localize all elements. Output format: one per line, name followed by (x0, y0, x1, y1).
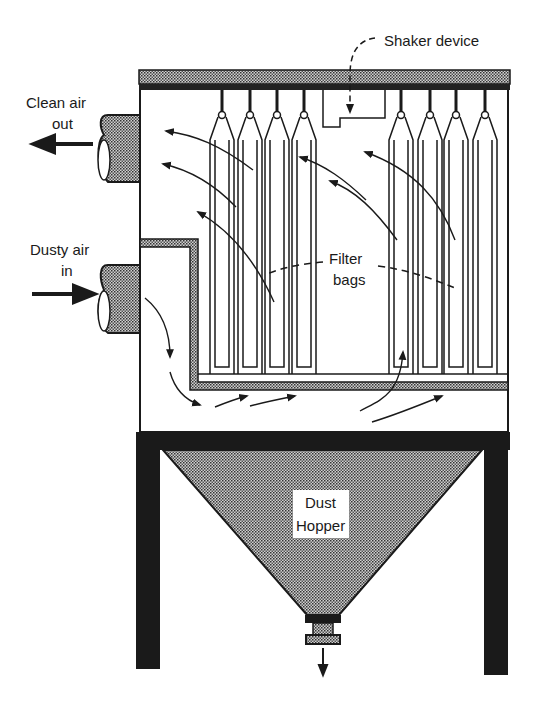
clean-airflow-arrows (163, 131, 455, 302)
dust-hopper-label-2: Hopper (296, 517, 345, 534)
discharge-valve (305, 615, 341, 644)
top-plate (139, 70, 510, 90)
filter-bags-label-1: Filter (329, 250, 362, 267)
filter-bags-label-2: bags (333, 271, 366, 288)
shaker-device-label: Shaker device (384, 32, 479, 49)
dusty-air-label-1: Dusty air (30, 241, 89, 258)
baghouse-diagram: Shaker device Clean air out Dusty air in… (0, 0, 533, 718)
shaker-device (323, 90, 385, 127)
filter-bag (238, 90, 262, 374)
clean-air-label-2: out (52, 115, 74, 132)
dusty-air-label-2: in (61, 262, 73, 279)
clean-air-outlet-pipe (98, 115, 140, 182)
filter-bag (265, 90, 289, 374)
filter-bag (210, 90, 234, 374)
filter-bags-leader-left (265, 262, 323, 275)
filter-bag (444, 90, 468, 374)
filter-bag (389, 90, 413, 374)
filter-bag (473, 90, 497, 374)
dust-hopper-label-1: Dust (305, 494, 337, 511)
filter-bag (418, 90, 442, 374)
clean-air-label-1: Clean air (26, 94, 86, 111)
dusty-air-inlet-pipe (98, 265, 140, 333)
filter-bag (292, 90, 316, 374)
filter-bags (210, 90, 497, 374)
